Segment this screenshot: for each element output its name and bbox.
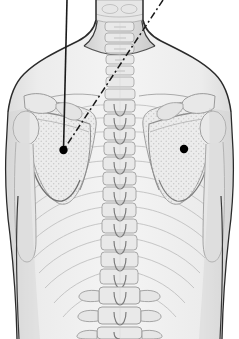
marker-left-scapula[interactable] [59, 146, 67, 154]
marker-right-scapula[interactable] [180, 145, 188, 153]
occiput-bone [84, 0, 155, 23]
thoracic-spine [100, 100, 138, 288]
anatomy-figure: Posterior view of upper torso skeleton L… [0, 0, 239, 339]
anatomy-illustration [0, 0, 239, 339]
lumbar-spine [77, 287, 162, 339]
